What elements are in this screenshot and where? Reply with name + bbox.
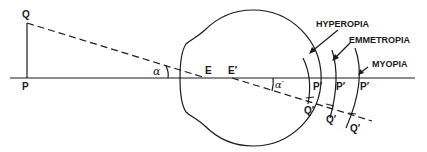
label-Q-prime-myopia: Q′ bbox=[350, 124, 360, 134]
label-alpha: α bbox=[153, 66, 160, 77]
label-hyperopia: HYPEROPIA bbox=[316, 20, 369, 29]
eye-optics-diagram: Q P α E E′ α′ HYPEROPIA EMMETROPIA MYOPI… bbox=[0, 0, 427, 152]
incident-ray bbox=[27, 23, 206, 78]
label-P-prime-hyperopia: P′ bbox=[313, 82, 322, 92]
label-myopia: MYOPIA bbox=[372, 60, 408, 69]
label-alpha-prime: α′ bbox=[275, 80, 284, 90]
label-Q: Q bbox=[22, 10, 30, 20]
label-E: E bbox=[205, 66, 212, 76]
myopia-retina bbox=[346, 48, 359, 128]
label-P-prime-emmetropia: P′ bbox=[336, 82, 345, 92]
label-Q-prime-emmetropia: Q′ bbox=[326, 115, 336, 125]
hyperopia-leader bbox=[311, 30, 338, 52]
label-E-prime: E′ bbox=[228, 66, 237, 76]
alpha-prime-arc bbox=[272, 78, 273, 91]
label-P-prime-myopia: P′ bbox=[360, 82, 369, 92]
label-Q-prime-hyperopia: Q′ bbox=[304, 106, 314, 116]
label-emmetropia: EMMETROPIA bbox=[349, 36, 410, 45]
alpha-arc bbox=[166, 66, 168, 78]
label-P: P bbox=[22, 82, 29, 92]
